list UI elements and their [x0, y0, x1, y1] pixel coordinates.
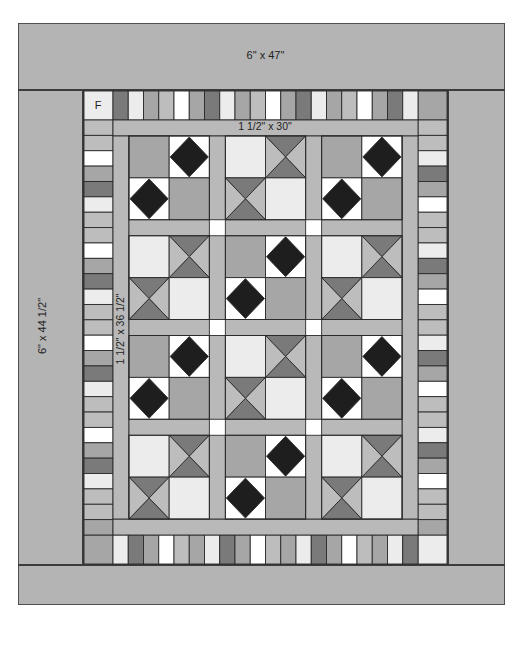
plain-square-light [129, 435, 169, 477]
left-piano-key [84, 166, 113, 181]
plain-square-light [225, 336, 265, 378]
bottom-piano-key [250, 535, 265, 564]
inner-top-border-label: 1 1/2" x 30" [113, 120, 417, 132]
left-piano-key [84, 412, 113, 427]
sashing-cornerstone [209, 419, 225, 435]
top-piano-key [250, 91, 265, 120]
bottom-piano-key [144, 535, 159, 564]
right-piano-key [418, 520, 447, 535]
plain-square [322, 136, 362, 178]
top-piano-key [403, 91, 418, 120]
left-piano-key [84, 228, 113, 243]
quilt-center-drawing [0, 0, 531, 648]
top-piano-key [205, 91, 220, 120]
top-piano-key [235, 91, 250, 120]
top-piano-key [189, 91, 204, 120]
bottom-piano-key [311, 535, 326, 564]
bottom-piano-key [372, 535, 387, 564]
left-piano-key [84, 120, 113, 135]
left-piano-key [84, 304, 113, 319]
right-piano-key [418, 274, 447, 289]
inner-bottom-border [113, 519, 418, 535]
right-piano-key [418, 151, 447, 166]
top-piano-key [144, 91, 159, 120]
right-piano-key [418, 212, 447, 227]
right-piano-key [418, 228, 447, 243]
right-piano-key [418, 458, 447, 473]
bottom-piano-key [128, 535, 143, 564]
sashing-cornerstone [209, 220, 225, 236]
bottom-piano-key [220, 535, 235, 564]
top-piano-key [159, 91, 174, 120]
bottom-piano-key [342, 535, 357, 564]
right-piano-key [418, 258, 447, 273]
right-piano-key [418, 397, 447, 412]
right-piano-key [418, 474, 447, 489]
right-piano-key [418, 304, 447, 319]
left-piano-key [84, 366, 113, 381]
left-piano-key [84, 320, 113, 335]
plain-square-light [225, 136, 265, 178]
corner-block-top-right [418, 91, 447, 120]
right-piano-key [418, 381, 447, 396]
top-piano-key [174, 91, 189, 120]
right-piano-key [418, 243, 447, 258]
sashing-cornerstone [306, 320, 322, 336]
sashing-cornerstone [306, 220, 322, 236]
left-piano-key [84, 351, 113, 366]
right-piano-key [418, 366, 447, 381]
right-piano-key [418, 443, 447, 458]
plain-square [266, 278, 306, 320]
left-piano-key [84, 212, 113, 227]
plain-square-light [362, 477, 402, 519]
top-piano-key [357, 91, 372, 120]
bottom-piano-key [189, 535, 204, 564]
inner-side-border-label: 1 1/2" x 36 1/2" [114, 279, 126, 379]
top-piano-key [128, 91, 143, 120]
left-piano-key [84, 258, 113, 273]
top-piano-key [296, 91, 311, 120]
top-piano-key [311, 91, 326, 120]
plain-square [362, 178, 402, 220]
plain-square-light [322, 435, 362, 477]
plain-square [169, 178, 209, 220]
sashing-cornerstone [306, 419, 322, 435]
right-piano-key [418, 197, 447, 212]
left-piano-key [84, 381, 113, 396]
left-piano-key [84, 151, 113, 166]
bottom-piano-key [403, 535, 418, 564]
left-piano-key [84, 458, 113, 473]
top-piano-key [281, 91, 296, 120]
top-piano-key [342, 91, 357, 120]
bottom-piano-key [205, 535, 220, 564]
right-piano-key [418, 120, 447, 135]
right-piano-key [418, 166, 447, 181]
left-piano-key [84, 135, 113, 150]
plain-square-light [169, 278, 209, 320]
corner-block-bottom-right [418, 535, 447, 564]
top-piano-key [388, 91, 403, 120]
left-piano-key [84, 397, 113, 412]
left-piano-key [84, 520, 113, 535]
right-piano-key [418, 351, 447, 366]
left-piano-key [84, 443, 113, 458]
plain-square [129, 136, 169, 178]
bottom-piano-key [357, 535, 372, 564]
right-piano-key [418, 412, 447, 427]
plain-square-light [169, 477, 209, 519]
bottom-piano-key [327, 535, 342, 564]
bottom-piano-key [174, 535, 189, 564]
left-piano-key [84, 489, 113, 504]
plain-square-light [266, 178, 306, 220]
left-piano-key [84, 289, 113, 304]
plain-square [225, 236, 265, 278]
bottom-piano-key [235, 535, 250, 564]
plain-square [225, 435, 265, 477]
top-piano-key [327, 91, 342, 120]
bottom-piano-key [388, 535, 403, 564]
bottom-piano-key [266, 535, 281, 564]
right-piano-key [418, 427, 447, 442]
left-piano-key [84, 243, 113, 258]
top-piano-key [113, 91, 128, 120]
left-piano-key [84, 427, 113, 442]
